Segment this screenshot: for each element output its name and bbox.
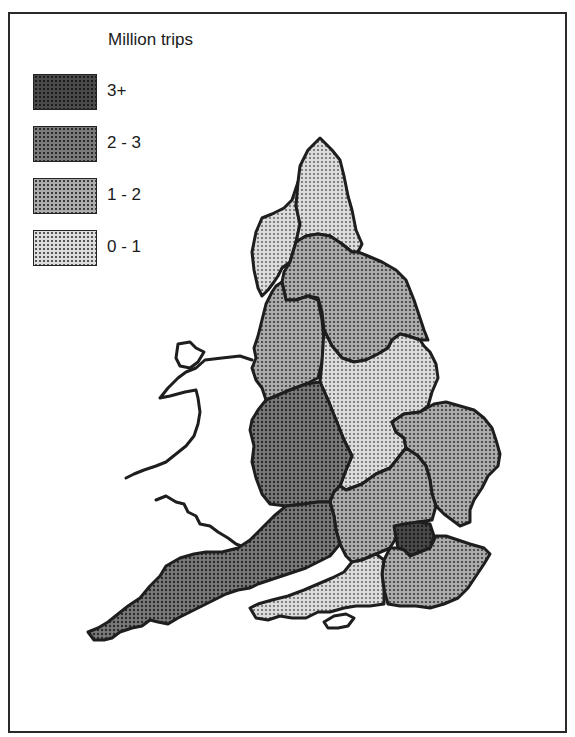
region-south-east [382,536,490,608]
england-regions-map [0,0,575,737]
region-isle-of-wight [324,614,354,628]
region-wales [126,356,266,548]
